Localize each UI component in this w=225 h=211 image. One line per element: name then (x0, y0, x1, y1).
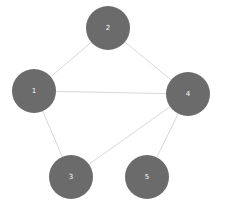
node-layer: 12345 (12, 6, 210, 199)
graph-node-3[interactable]: 3 (49, 155, 93, 199)
graph-node-5[interactable]: 5 (125, 155, 169, 199)
graph-node-2[interactable]: 2 (86, 6, 130, 50)
node-circle-3[interactable] (49, 155, 93, 199)
graph-node-4[interactable]: 4 (166, 72, 210, 116)
graph-node-1[interactable]: 1 (12, 69, 56, 113)
node-circle-2[interactable] (86, 6, 130, 50)
edge-layer (34, 28, 188, 177)
graph-edge-1-4 (34, 91, 188, 94)
graph-diagram: 12345 (0, 0, 225, 211)
node-circle-1[interactable] (12, 69, 56, 113)
node-circle-5[interactable] (125, 155, 169, 199)
node-circle-4[interactable] (166, 72, 210, 116)
graph-svg: 12345 (0, 0, 225, 211)
